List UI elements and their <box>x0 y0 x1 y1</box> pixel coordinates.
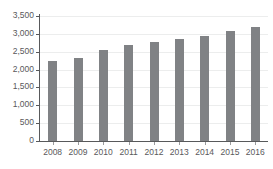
x-axis-tick <box>53 142 54 145</box>
y-axis-tick-label: 3,500 <box>13 11 34 20</box>
y-axis-tick-label: 1,500 <box>13 82 34 91</box>
x-axis-tick <box>154 142 155 145</box>
x-axis-tick <box>129 142 130 145</box>
bar <box>74 58 83 141</box>
y-axis-tick-label: 1,000 <box>13 100 34 109</box>
y-axis-tick-label: 0 <box>29 136 34 145</box>
bar <box>124 45 133 141</box>
y-axis-tick-label: 2,500 <box>13 47 34 56</box>
x-axis-tick <box>230 142 231 145</box>
x-axis-tick-label: 2014 <box>192 147 218 157</box>
bar <box>150 42 159 141</box>
bar <box>200 36 209 141</box>
plot-area <box>40 16 268 141</box>
x-axis-tick-label: 2016 <box>242 147 268 157</box>
bar <box>175 39 184 142</box>
x-axis-tick-label: 2015 <box>217 147 243 157</box>
bar <box>99 50 108 141</box>
bar <box>251 27 260 141</box>
x-axis-tick <box>78 142 79 145</box>
y-axis-tick-label: 500 <box>20 118 34 127</box>
x-axis-tick-label: 2011 <box>116 147 142 157</box>
x-axis-tick <box>205 142 206 145</box>
x-axis-tick <box>255 142 256 145</box>
bar-chart: 05001,0001,5002,0002,5003,0003,500 20082… <box>0 0 273 169</box>
bar <box>48 61 57 141</box>
x-axis-tick-label: 2008 <box>40 147 66 157</box>
x-axis-tick-label: 2009 <box>65 147 91 157</box>
y-axis-tick-label: 3,000 <box>13 29 34 38</box>
x-axis-tick-label: 2012 <box>141 147 167 157</box>
x-axis-tick <box>179 142 180 145</box>
x-axis-tick-label: 2010 <box>90 147 116 157</box>
bar <box>226 31 235 141</box>
x-axis-tick-label: 2013 <box>166 147 192 157</box>
x-axis-tick <box>103 142 104 145</box>
y-axis-tick-label: 2,000 <box>13 65 34 74</box>
